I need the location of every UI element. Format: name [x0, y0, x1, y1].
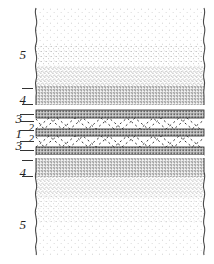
label-5-top: 5: [12, 48, 26, 61]
layer-4-top: [36, 86, 204, 105]
label-4-top-tick-0: [22, 88, 33, 89]
label-3-upper-tick-0: [20, 114, 34, 115]
label-4-top-tick-1: [22, 104, 33, 105]
label-2-lower: 2: [20, 133, 34, 144]
torn-wavy-edge-right: [203, 8, 205, 105]
label-4-bottom-tick-0: [22, 160, 33, 161]
gap-upper: [36, 105, 204, 110]
layer-2-lower-zigzag: [36, 136, 204, 147]
layer-5-bottom: [36, 177, 204, 255]
layer-3-upper: [36, 110, 204, 118]
layer-4-bottom: [36, 158, 204, 177]
layer-5-top: [36, 8, 204, 86]
layer-3-lower: [36, 147, 204, 155]
layered-cross-section-figure: 543212345: [0, 0, 214, 264]
label-4-bottom: 4: [12, 166, 26, 179]
label-2-upper-tick-0: [20, 121, 34, 122]
gap-lower: [36, 155, 204, 158]
label-2-upper-tick-1: [20, 130, 34, 131]
layer-2-upper-zigzag: [36, 118, 204, 129]
layer-1-middle: [36, 129, 204, 136]
label-4-bottom-tick-1: [22, 176, 33, 177]
label-5-bottom: 5: [12, 218, 26, 231]
torn-wavy-edge-left: [35, 8, 37, 105]
label-2-lower-tick-0: [20, 141, 34, 142]
label-3-lower-tick-0: [20, 150, 34, 151]
